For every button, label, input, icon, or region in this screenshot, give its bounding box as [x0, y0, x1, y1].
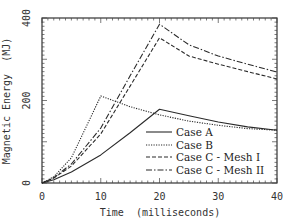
legend-label: Case C - Mesh I: [176, 151, 260, 163]
y-axis-label: Magnetic Energy (MJ): [1, 38, 12, 164]
x-tick-label: 20: [153, 191, 165, 202]
y-tick-label: 0: [21, 180, 32, 186]
legend-label: Case A: [176, 126, 213, 138]
legend-label: Case C - Mesh II: [176, 164, 264, 176]
x-tick-label: 30: [212, 191, 224, 202]
magnetic-energy-chart: 0102030400200400 Case ACase BCase C - Me…: [0, 0, 287, 220]
chart-svg: 0102030400200400 Case ACase BCase C - Me…: [0, 0, 287, 220]
legend-label: Case B: [176, 139, 213, 151]
x-tick-label: 10: [95, 191, 107, 202]
x-tick-label: 0: [39, 191, 45, 202]
x-tick-label: 40: [271, 191, 283, 202]
y-tick-label: 400: [21, 9, 32, 27]
x-axis-label: Time (milliseconds): [100, 207, 220, 218]
legend: Case ACase BCase C - Mesh ICase C - Mesh…: [146, 126, 264, 176]
y-tick-label: 200: [21, 91, 32, 109]
